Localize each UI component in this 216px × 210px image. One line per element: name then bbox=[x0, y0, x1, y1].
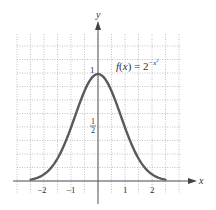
x-axis-arrow-icon bbox=[188, 178, 197, 184]
x-tick-label: −2 bbox=[37, 185, 47, 195]
svg-text:1: 1 bbox=[91, 117, 95, 126]
function-annotation: f(x) = 2−x2 bbox=[116, 58, 159, 73]
function-plot: x y −2 −1 1 2 1 1 2 f(x) = 2−x2 bbox=[0, 0, 216, 210]
svg-text:2: 2 bbox=[91, 126, 95, 135]
y-tick-label-half: 1 2 bbox=[90, 117, 96, 135]
x-tick-label: 2 bbox=[150, 185, 155, 195]
y-tick-label-one: 1 bbox=[90, 65, 95, 75]
x-tick-label: 1 bbox=[123, 185, 128, 195]
y-axis-label: y bbox=[95, 9, 101, 20]
x-tick-label: −1 bbox=[66, 185, 76, 195]
x-axis-label: x bbox=[198, 175, 204, 186]
y-axis-arrow-icon bbox=[95, 21, 101, 30]
